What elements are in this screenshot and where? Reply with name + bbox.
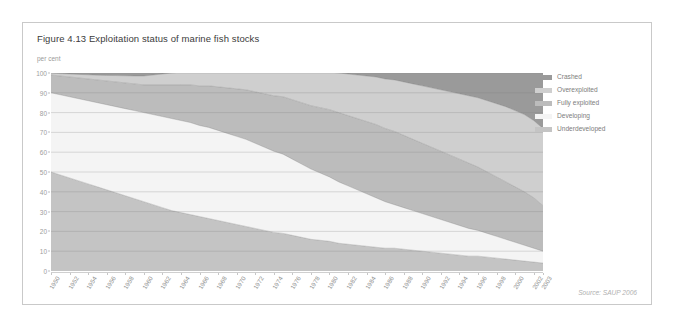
x-axis-tick-mark [51,273,52,275]
x-axis-tick-mark [218,273,219,275]
x-axis-tick-label: 1976 [289,275,302,290]
x-axis-tick-mark [385,273,386,275]
x-axis-tick-label: 1960 [141,275,154,290]
x-axis-tick-label: 1974 [270,275,283,290]
y-axis-tick-label: 50 [25,169,47,176]
y-axis-tick-mark [48,231,50,232]
x-axis-tick-mark [125,273,126,275]
x-axis-tick-label: 1990 [419,275,432,290]
x-axis-tick-label: 1972 [252,275,265,290]
x-axis-tick-mark [441,273,442,275]
legend-item-label: Underdeveloped [557,126,605,133]
legend-swatch-icon [535,101,552,106]
x-axis-tick-mark [348,273,349,275]
figure-panel: Figure 4.13 Exploitation status of marin… [22,22,652,305]
legend-item[interactable]: Underdeveloped [535,123,645,136]
stacked-area-plot [51,73,543,271]
x-axis-tick-label: 1994 [456,275,469,290]
y-axis-tick-label: 70 [25,129,47,136]
x-axis-tick-mark [422,273,423,275]
x-axis-tick-mark [237,273,238,275]
y-axis-tick-label: 80 [25,109,47,116]
x-axis-tick-label: 1986 [382,275,395,290]
x-axis-tick-mark [515,273,516,275]
legend-swatch-icon [535,127,552,132]
y-axis-tick-mark [48,271,50,272]
x-axis-tick-mark [404,273,405,275]
y-axis-tick-label: 30 [25,208,47,215]
legend-swatch-icon [535,114,552,119]
x-axis-tick-label: 1962 [159,275,172,290]
y-axis-tick-mark [48,172,50,173]
y-axis-tick-mark [48,73,50,74]
figure-title: Figure 4.13 Exploitation status of marin… [37,33,259,44]
x-axis-tick-label: 1964 [178,275,191,290]
x-axis-tick-label: 1978 [308,275,321,290]
y-axis-tick-label: 20 [25,228,47,235]
y-axis-tick-mark [48,152,50,153]
y-axis-tick-label: 90 [25,89,47,96]
x-axis-tick-mark [543,273,544,275]
plot-wrapper: 0102030405060708090100 [51,73,543,271]
x-axis-tick-mark [255,273,256,275]
y-axis-tick-label: 40 [25,188,47,195]
legend-swatch-icon [535,75,552,80]
x-axis-tick-label: 1984 [363,275,376,290]
x-axis-tick-mark [329,273,330,275]
x-axis-tick-label: 1958 [122,275,135,290]
legend-swatch-icon [535,88,552,93]
x-axis-tick-mark [459,273,460,275]
y-axis-tick-label: 0 [25,268,47,275]
source-note: Source: SAUP 2006 [578,289,637,296]
x-axis-tick-mark [497,273,498,275]
y-axis-tick-mark [48,191,50,192]
y-axis-unit-label: per cent [37,55,61,62]
y-axis-tick-mark [48,112,50,113]
legend-item[interactable]: Fully exploited [535,97,645,110]
legend-item-label: Fully exploited [557,100,599,107]
x-axis-tick-label: 1980 [326,275,339,290]
x-axis-tick-mark [144,273,145,275]
x-axis-tick-label: 1982 [345,275,358,290]
y-axis-tick-label: 60 [25,149,47,156]
y-axis-tick-label: 10 [25,248,47,255]
legend-item-label: Crashed [557,74,582,81]
x-axis-tick-mark [88,273,89,275]
x-axis-tick-mark [292,273,293,275]
x-axis-tick-mark [200,273,201,275]
x-axis-tick-label: 1992 [438,275,451,290]
x-axis-tick-label: 1956 [103,275,116,290]
x-axis-tick-label: 1996 [475,275,488,290]
y-axis-tick-mark [48,92,50,93]
chart-svg [51,73,543,271]
legend-item[interactable]: Developing [535,110,645,123]
chart-legend: CrashedOverexploitedFully exploitedDevel… [535,71,645,136]
x-axis-tick-label: 1998 [493,275,506,290]
x-axis-ticks: 1950195219541956195819601962196419661968… [51,273,543,307]
legend-item-label: Overexploited [557,87,598,94]
legend-item-label: Developing [557,113,590,120]
x-axis-tick-mark [181,273,182,275]
x-axis-tick-label: 2000 [512,275,525,290]
legend-item[interactable]: Overexploited [535,84,645,97]
y-axis-tick-mark [48,211,50,212]
x-axis-tick-mark [311,273,312,275]
y-axis-tick-mark [48,251,50,252]
x-axis-tick-mark [478,273,479,275]
x-axis-tick-label: 1966 [196,275,209,290]
x-axis-tick-mark [274,273,275,275]
legend-item[interactable]: Crashed [535,71,645,84]
x-axis-tick-mark [107,273,108,275]
x-axis-tick-mark [162,273,163,275]
x-axis-tick-mark [534,273,535,275]
x-axis-tick-label: 1950 [48,275,61,290]
x-axis-tick-mark [367,273,368,275]
x-axis-tick-label: 1968 [215,275,228,290]
y-axis-tick-label: 100 [25,70,47,77]
x-axis-tick-mark [70,273,71,275]
x-axis-tick-label: 1952 [66,275,79,290]
x-axis-tick-label: 1988 [400,275,413,290]
y-axis-tick-mark [48,132,50,133]
x-axis-tick-label: 1970 [233,275,246,290]
x-axis-tick-label: 1954 [85,275,98,290]
